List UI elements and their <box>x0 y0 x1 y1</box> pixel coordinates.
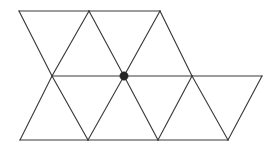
lattice-edge-diagonal-down-right-9 <box>89 11 124 76</box>
lattice-edge-diagonal-down-left-18 <box>158 76 192 140</box>
lattice-edge-diagonal-down-right-8 <box>19 11 52 76</box>
lattice-edge-diagonal-down-left-17 <box>88 76 124 140</box>
lattice-edge-diagonal-down-left-12 <box>124 11 160 76</box>
triangular-lattice-svg <box>0 0 266 152</box>
lattice-edge-diagonal-down-right-10 <box>160 11 192 76</box>
figure-canvas <box>0 0 266 152</box>
lattice-edge-diagonal-down-left-11 <box>52 11 89 76</box>
lattice-edge-diagonal-down-left-16 <box>20 76 52 140</box>
lattice-edge-diagonal-down-right-14 <box>124 76 158 140</box>
marked-vertex-layer <box>120 72 128 80</box>
lattice-edge-diagonal-down-right-15 <box>192 76 228 140</box>
lattice-edge-diagonal-down-right-13 <box>52 76 88 140</box>
lattice-edge-diagonal-down-left-19 <box>228 76 262 140</box>
marked-vertex-dot <box>120 72 128 80</box>
lattice-edge-layer <box>19 11 262 140</box>
